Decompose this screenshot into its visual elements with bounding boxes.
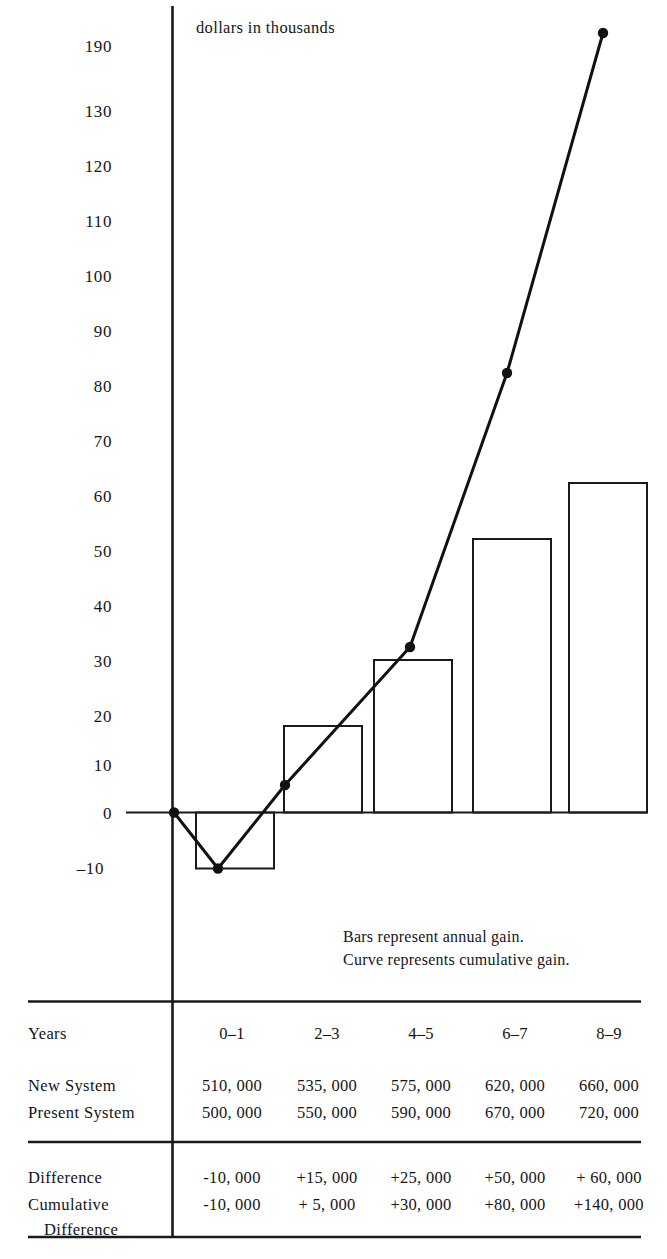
table-cell: 510, 000 bbox=[186, 1078, 278, 1095]
bar-2-3 bbox=[284, 726, 362, 813]
curve-point-0-1 bbox=[213, 863, 223, 873]
table-cell: +30, 000 bbox=[375, 1197, 467, 1214]
table-row-label: Cumulative bbox=[28, 1197, 109, 1214]
table-cell: +15, 000 bbox=[281, 1170, 373, 1187]
table-cell: +50, 000 bbox=[469, 1170, 561, 1187]
y-tick-label: 120 bbox=[50, 158, 112, 175]
curve-point-start bbox=[169, 807, 179, 817]
table-row-label: Present System bbox=[28, 1105, 135, 1122]
bar-8-9 bbox=[569, 483, 647, 813]
y-tick-label: 70 bbox=[50, 433, 112, 450]
table-row-label-continued: Difference bbox=[44, 1222, 118, 1239]
table-cell: -10, 000 bbox=[186, 1197, 278, 1214]
y-tick-label: 0 bbox=[50, 805, 112, 822]
table-cell: 720, 000 bbox=[563, 1105, 655, 1122]
legend-line-bars: Bars represent annual gain. bbox=[343, 925, 570, 948]
table-row-label: New System bbox=[28, 1078, 116, 1095]
table-col-header: 4–5 bbox=[375, 1026, 467, 1043]
bar-6-7 bbox=[473, 539, 551, 813]
y-tick-label: 30 bbox=[50, 653, 112, 670]
y-tick-label: 110 bbox=[50, 213, 112, 230]
bar-0-1 bbox=[196, 813, 274, 869]
curve-point-8-9 bbox=[598, 28, 608, 38]
table-cell: 590, 000 bbox=[375, 1105, 467, 1122]
table-cell: +80, 000 bbox=[469, 1197, 561, 1214]
chart-plot-area: dollars in thousands 190 130 120 110 100… bbox=[0, 0, 667, 1000]
table-cell: 620, 000 bbox=[469, 1078, 561, 1095]
table-cell: +140, 000 bbox=[563, 1197, 655, 1214]
y-tick-label: 100 bbox=[50, 268, 112, 285]
table-cell: 535, 000 bbox=[281, 1078, 373, 1095]
y-tick-label: 90 bbox=[50, 323, 112, 340]
cumulative-gain-curve bbox=[174, 33, 603, 869]
bar-4-5 bbox=[374, 660, 452, 813]
table-cell: -10, 000 bbox=[186, 1170, 278, 1187]
table-cell: + 5, 000 bbox=[281, 1197, 373, 1214]
curve-point-6-7 bbox=[502, 368, 512, 378]
y-tick-label: 10 bbox=[50, 757, 112, 774]
curve-point-2-3 bbox=[280, 780, 290, 790]
table-col-header: 6–7 bbox=[469, 1026, 561, 1043]
table-cell: 550, 000 bbox=[281, 1105, 373, 1122]
y-tick-label: 50 bbox=[50, 543, 112, 560]
curve-point-4-5 bbox=[405, 642, 415, 652]
table-row-header-years: Years bbox=[28, 1026, 67, 1043]
legend-line-curve: Curve represents cumulative gain. bbox=[343, 948, 570, 971]
y-tick-label: –10 bbox=[42, 860, 104, 877]
chart-legend: Bars represent annual gain. Curve repres… bbox=[343, 925, 570, 971]
y-tick-label: 190 bbox=[50, 38, 112, 55]
y-tick-label: 130 bbox=[50, 103, 112, 120]
chart-page: dollars in thousands 190 130 120 110 100… bbox=[0, 0, 667, 1259]
chart-units-note: dollars in thousands bbox=[196, 18, 335, 38]
table-cell: +25, 000 bbox=[375, 1170, 467, 1187]
table-cell: 660, 000 bbox=[563, 1078, 655, 1095]
y-tick-label: 40 bbox=[50, 598, 112, 615]
table-cell: 500, 000 bbox=[186, 1105, 278, 1122]
table-col-header: 0–1 bbox=[186, 1026, 278, 1043]
data-table: Years 0–1 2–3 4–5 6–7 8–9 New System 510… bbox=[0, 1000, 667, 1259]
y-tick-label: 20 bbox=[50, 708, 112, 725]
table-col-header: 2–3 bbox=[281, 1026, 373, 1043]
table-col-header: 8–9 bbox=[563, 1026, 655, 1043]
table-cell: 575, 000 bbox=[375, 1078, 467, 1095]
y-tick-label: 60 bbox=[50, 488, 112, 505]
y-tick-label: 80 bbox=[50, 378, 112, 395]
table-cell: 670, 000 bbox=[469, 1105, 561, 1122]
table-row-label: Difference bbox=[28, 1170, 102, 1187]
table-cell: + 60, 000 bbox=[563, 1170, 655, 1187]
